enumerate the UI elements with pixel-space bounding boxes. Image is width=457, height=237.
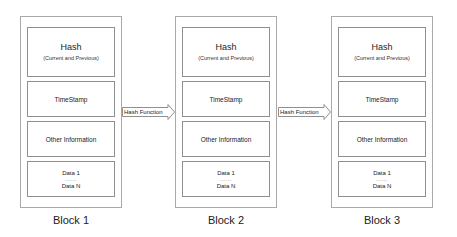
timestamp-label: TimeStamp [210,96,243,103]
other-information-section: Other Information [182,121,270,157]
hash-section: Hash (Current and Previous) [182,27,270,77]
block-1: Hash (Current and Previous) TimeStamp Ot… [20,16,122,208]
other-information-label: Other Information [201,136,252,143]
timestamp-section: TimeStamp [338,81,426,117]
hash-subtitle: (Current and Previous) [43,54,99,62]
other-information-label: Other Information [357,136,408,143]
hash-title: Hash [60,42,81,53]
other-information-section: Other Information [338,121,426,157]
hash-title: Hash [215,42,236,53]
other-information-label: Other Information [46,136,97,143]
hash-function-label: Hash Function [124,107,163,117]
hash-section: Hash (Current and Previous) [338,27,426,77]
hash-subtitle: (Current and Previous) [354,54,410,62]
timestamp-label: TimeStamp [55,96,88,103]
other-information-section: Other Information [27,121,115,157]
block-1-label: Block 1 [20,214,122,226]
data-section: Data 1 ...... Data N [338,161,426,197]
timestamp-label: TimeStamp [366,96,399,103]
hash-function-label: Hash Function [280,107,319,117]
block-2: Hash (Current and Previous) TimeStamp Ot… [175,16,277,208]
hash-title: Hash [371,42,392,53]
block-3: Hash (Current and Previous) TimeStamp Ot… [331,16,433,208]
hash-subtitle: (Current and Previous) [198,54,254,62]
block-2-label: Block 2 [175,214,277,226]
block-3-label: Block 3 [331,214,433,226]
timestamp-section: TimeStamp [182,81,270,117]
hash-section: Hash (Current and Previous) [27,27,115,77]
data-last-label: Data N [217,182,236,190]
data-last-label: Data N [373,182,392,190]
data-section: Data 1 ...... Data N [182,161,270,197]
hash-function-arrow-1: Hash Function [122,104,175,120]
data-section: Data 1 ...... Data N [27,161,115,197]
timestamp-section: TimeStamp [27,81,115,117]
data-last-label: Data N [62,182,81,190]
hash-function-arrow-2: Hash Function [278,104,331,120]
